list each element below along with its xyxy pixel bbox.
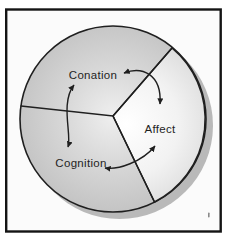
print-artifact-mark	[208, 213, 210, 218]
tripartite-mind-diagram: Conation Affect Cognition	[0, 0, 235, 244]
label-conation: Conation	[69, 69, 117, 81]
label-cognition: Cognition	[55, 157, 106, 169]
figure: Conation Affect Cognition	[0, 0, 235, 244]
label-affect: Affect	[145, 123, 176, 135]
